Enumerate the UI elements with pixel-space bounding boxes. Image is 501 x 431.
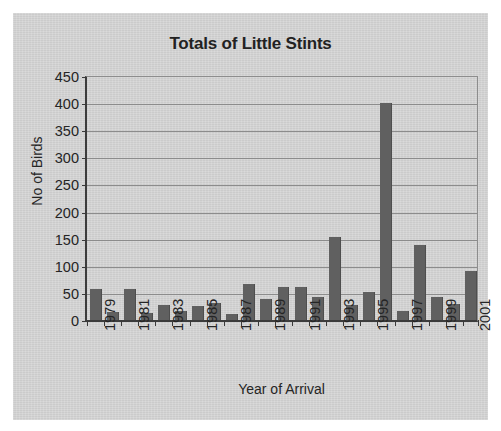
bar (158, 305, 170, 320)
x-axis-tick (360, 320, 361, 326)
y-axis-tick (82, 185, 87, 186)
bar (329, 237, 341, 320)
x-axis-tick-label: 1987 (238, 299, 254, 331)
x-axis-tick (395, 320, 396, 326)
plot-area: 050100150200250300350400450 197919811983… (85, 76, 478, 322)
bar (465, 271, 477, 320)
x-axis-tick (326, 320, 327, 326)
y-axis-title: No of Birds (29, 106, 45, 236)
x-axis-tick-label: 1993 (341, 299, 357, 331)
bar (90, 289, 102, 320)
y-axis-tick (82, 213, 87, 214)
y-axis-tick-label: 250 (55, 177, 79, 193)
y-axis-tick (82, 131, 87, 132)
x-axis-title: Year of Arrival (85, 381, 478, 397)
y-axis-tick (82, 294, 87, 295)
gridline (87, 131, 477, 132)
gridline (87, 158, 477, 159)
bar (397, 311, 409, 320)
y-axis-tick-label: 100 (55, 259, 79, 275)
x-axis-tick-label: 1981 (136, 299, 152, 331)
x-axis-tick-label: 1985 (204, 299, 220, 331)
x-axis-tick-label: 1997 (409, 299, 425, 331)
gridline (87, 185, 477, 186)
bar (124, 289, 136, 320)
x-axis-tick (258, 320, 259, 326)
x-axis-tick-label: 1991 (307, 299, 323, 331)
x-axis-tick (155, 320, 156, 326)
chart-panel: Totals of Little Stints No of Birds 0501… (13, 13, 488, 420)
x-axis-tick-label: 2001 (477, 299, 493, 331)
bar (431, 297, 443, 320)
bar (192, 306, 204, 320)
y-axis-tick-label: 450 (55, 69, 79, 85)
y-axis-tick (82, 104, 87, 105)
bar (260, 299, 272, 320)
y-axis-tick (82, 240, 87, 241)
x-axis-tick (463, 320, 464, 326)
y-axis-tick-label: 50 (63, 286, 79, 302)
x-axis-tick-label: 1999 (443, 299, 459, 331)
y-axis-tick-label: 150 (55, 232, 79, 248)
y-axis-tick-label: 350 (55, 123, 79, 139)
x-axis-tick (224, 320, 225, 326)
x-axis-tick-label: 1989 (272, 299, 288, 331)
gridline (87, 104, 477, 105)
gridline (87, 240, 477, 241)
chart-title: Totals of Little Stints (13, 34, 488, 54)
x-axis-tick-label: 1979 (102, 299, 118, 331)
x-axis-tick (292, 320, 293, 326)
y-axis-tick (82, 267, 87, 268)
x-axis-tick (87, 320, 88, 326)
screenshot-root: Totals of Little Stints No of Birds 0501… (0, 0, 501, 431)
x-axis-tick-label: 1983 (170, 299, 186, 331)
bar (295, 287, 307, 320)
x-axis-tick (121, 320, 122, 326)
y-axis-tick-label: 200 (55, 205, 79, 221)
y-axis-tick-label: 0 (71, 313, 79, 329)
x-axis-tick (429, 320, 430, 326)
bar (380, 103, 392, 320)
y-axis-tick-label: 400 (55, 96, 79, 112)
x-axis-tick-label: 1995 (375, 299, 391, 331)
y-axis-tick (82, 158, 87, 159)
x-axis-tick (190, 320, 191, 326)
gridline (87, 213, 477, 214)
y-axis-tick (82, 77, 87, 78)
bar (226, 314, 238, 320)
y-axis-tick-label: 300 (55, 150, 79, 166)
bar (363, 292, 375, 320)
